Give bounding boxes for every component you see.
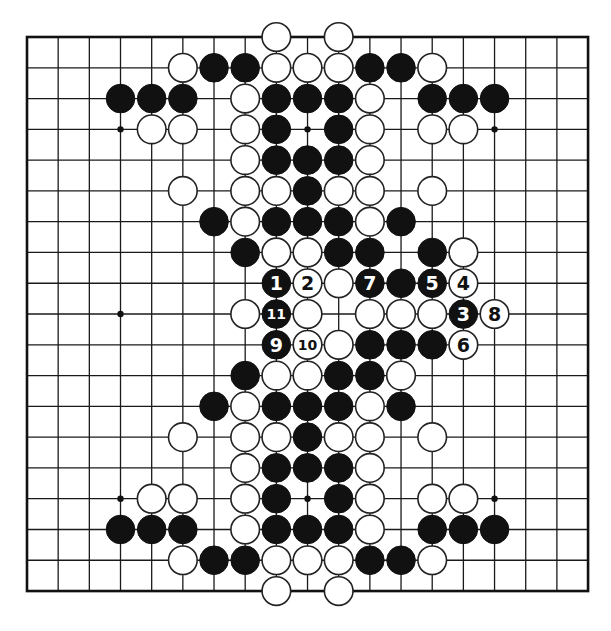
white-stone — [356, 515, 385, 544]
black-stone-icon — [293, 423, 322, 452]
black-stone — [262, 484, 291, 513]
white-stone-icon — [262, 238, 291, 267]
white-stone — [324, 53, 353, 82]
black-stone — [356, 53, 385, 82]
white-stone — [231, 300, 260, 329]
white-stone — [418, 115, 447, 144]
white-stone-icon — [137, 484, 166, 513]
white-stone — [231, 207, 260, 236]
white-stone — [262, 423, 291, 452]
black-stone-icon — [324, 84, 353, 113]
white-stone-icon — [418, 423, 447, 452]
black-stone-icon — [200, 207, 229, 236]
white-stone-icon — [293, 300, 322, 329]
white-stone — [293, 238, 322, 267]
black-stone — [231, 361, 260, 390]
white-stone-icon — [324, 23, 353, 52]
white-stone — [387, 361, 416, 390]
black-stone-icon — [418, 515, 447, 544]
white-stone — [356, 207, 385, 236]
white-stone-icon — [262, 546, 291, 575]
white-stone-icon — [418, 546, 447, 575]
move-number-label: 5 — [426, 272, 439, 294]
black-stone — [449, 84, 478, 113]
move-number-label: 1 — [270, 272, 283, 294]
white-stone-icon — [356, 515, 385, 544]
black-stone — [387, 269, 416, 298]
black-stone — [106, 84, 135, 113]
white-stone — [169, 177, 198, 206]
black-stone-icon — [262, 84, 291, 113]
white-stone: 4 — [449, 269, 478, 298]
white-stone — [231, 115, 260, 144]
black-stone — [262, 207, 291, 236]
black-stone-icon — [324, 515, 353, 544]
white-stone-icon — [169, 177, 198, 206]
black-stone-icon — [293, 207, 322, 236]
black-stone-icon — [200, 392, 229, 421]
white-stone — [231, 454, 260, 483]
white-stone — [449, 484, 478, 513]
black-stone — [293, 146, 322, 175]
white-stone — [231, 146, 260, 175]
black-stone-icon — [137, 84, 166, 113]
move-number-label: 2 — [301, 272, 314, 294]
white-stone-icon — [356, 454, 385, 483]
black-stone-icon — [480, 84, 509, 113]
black-stone — [324, 392, 353, 421]
black-stone — [387, 546, 416, 575]
white-stone-icon — [387, 300, 416, 329]
star-point-icon — [117, 311, 123, 317]
move-number-label: 4 — [457, 272, 470, 294]
black-stone-icon — [356, 238, 385, 267]
white-stone-icon — [169, 115, 198, 144]
black-stone-icon — [480, 515, 509, 544]
white-stone — [356, 177, 385, 206]
black-stone — [231, 546, 260, 575]
black-stone-icon — [262, 484, 291, 513]
black-stone-icon — [200, 53, 229, 82]
black-stone — [169, 84, 198, 113]
black-stone-icon — [324, 361, 353, 390]
white-stone-icon — [231, 84, 260, 113]
black-stone — [200, 207, 229, 236]
black-stone — [324, 146, 353, 175]
black-stone — [262, 454, 291, 483]
black-stone — [356, 546, 385, 575]
black-stone-icon — [449, 515, 478, 544]
white-stone — [262, 23, 291, 52]
white-stone — [324, 177, 353, 206]
white-stone-icon — [231, 392, 260, 421]
black-stone — [293, 423, 322, 452]
white-stone-icon — [324, 577, 353, 606]
white-stone-icon — [324, 331, 353, 360]
white-stone — [262, 546, 291, 575]
white-stone-icon — [356, 423, 385, 452]
white-stone — [418, 53, 447, 82]
black-stone-icon — [387, 392, 416, 421]
white-stone — [231, 84, 260, 113]
white-stone — [293, 361, 322, 390]
star-point-icon — [304, 126, 310, 132]
black-stone — [418, 84, 447, 113]
white-stone — [169, 115, 198, 144]
white-stone — [169, 546, 198, 575]
black-stone — [387, 53, 416, 82]
black-stone — [324, 84, 353, 113]
white-stone — [262, 53, 291, 82]
white-stone-icon — [231, 207, 260, 236]
white-stone — [169, 423, 198, 452]
white-stone — [449, 115, 478, 144]
white-stone-icon — [449, 484, 478, 513]
black-stone — [324, 515, 353, 544]
black-stone-icon — [231, 361, 260, 390]
white-stone-icon — [418, 484, 447, 513]
white-stone-icon — [231, 115, 260, 144]
black-stone — [387, 207, 416, 236]
white-stone — [169, 484, 198, 513]
white-stone-icon — [418, 115, 447, 144]
black-stone — [324, 238, 353, 267]
black-stone — [262, 146, 291, 175]
white-stone — [293, 300, 322, 329]
black-stone-icon — [231, 238, 260, 267]
